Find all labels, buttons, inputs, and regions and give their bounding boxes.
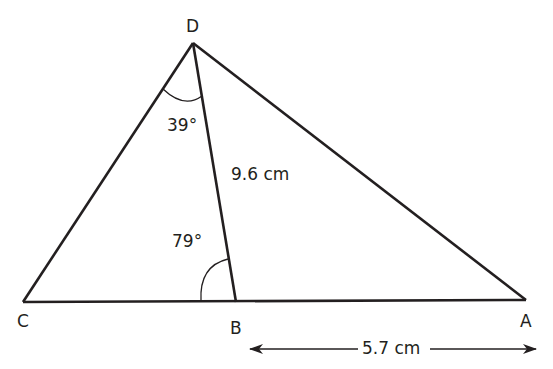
vertex-label-d: D: [186, 18, 199, 35]
side-ca: [23, 300, 526, 302]
angle-arc-d: [163, 89, 202, 101]
angle-label-d: 39°: [167, 117, 197, 134]
segment-db: [193, 43, 236, 302]
vertex-label-b: B: [230, 320, 242, 337]
diagram-lines: [0, 0, 553, 369]
length-label-db: 9.6 cm: [231, 166, 289, 183]
length-label-ba: 5.7 cm: [359, 340, 423, 357]
angle-label-b: 79°: [172, 233, 202, 250]
angle-arc-b: [201, 259, 228, 301]
side-dc: [23, 43, 193, 302]
vertex-label-c: C: [17, 313, 29, 330]
vertex-label-a: A: [520, 313, 532, 330]
triangle-diagram: D C B A 39° 79° 9.6 cm 5.7 cm: [0, 0, 553, 369]
